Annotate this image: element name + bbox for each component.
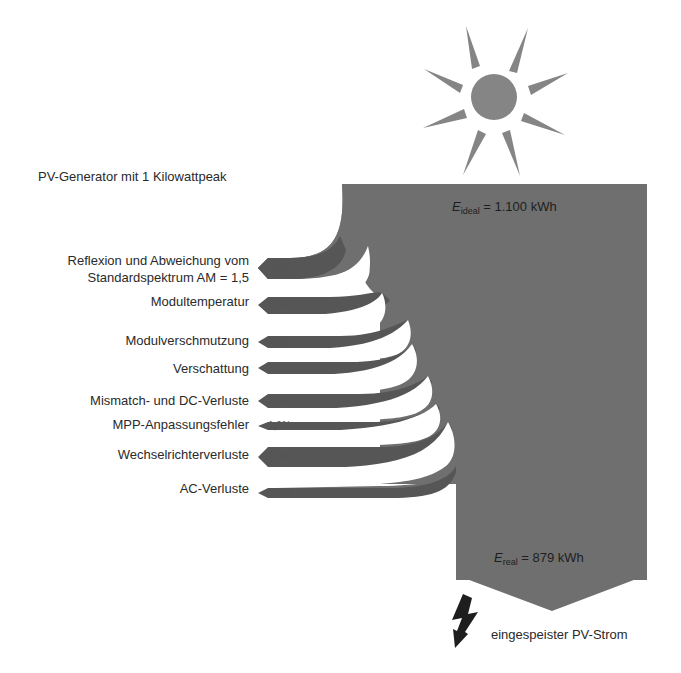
loss-label-reflexion: Reflexion und Abweichung vom Standardspe… <box>68 252 249 286</box>
loss-label-ac: AC-Verluste <box>180 481 249 496</box>
loss-percent: 4,5% <box>268 262 291 273</box>
diagram-title: PV-Generator mit 1 Kilowattpeak <box>38 169 227 184</box>
output-energy: Ereal = 879 kWh <box>494 550 584 567</box>
loss-label-verschattung: Verschattung <box>173 361 249 376</box>
loss-label-line1: Reflexion und Abweichung vom <box>68 252 249 269</box>
loss-label-mismatch: Mismatch- und DC-Verluste <box>90 393 249 408</box>
loss-percent: 3,0% <box>268 395 291 406</box>
input-energy-symbol: E <box>452 199 461 214</box>
input-energy-value: = 1.100 kWh <box>483 199 556 214</box>
input-energy: Eideal = 1.100 kWh <box>452 199 557 216</box>
loss-label-modultemperatur: Modultemperatur <box>151 294 249 309</box>
loss-label-line2: Standardspektrum AM = 1,5 <box>68 269 249 286</box>
lightning-bolt-icon <box>452 594 478 648</box>
loss-percent: 2,0% <box>268 336 291 347</box>
sankey-diagram <box>0 0 681 673</box>
loss-percent: 1,0% <box>268 420 291 431</box>
loss-label-modulverschmutzung: Modulverschmutzung <box>125 333 249 348</box>
output-label: eingespeister PV-Strom <box>491 627 628 642</box>
output-energy-symbol: E <box>494 550 503 565</box>
output-energy-value: = 879 kWh <box>521 550 584 565</box>
loss-label-wechselrichter: Wechselrichterverluste <box>118 447 249 462</box>
loss-label-mpp: MPP-Anpassungsfehler <box>112 417 249 432</box>
loss-percent: 3,5% <box>268 299 291 310</box>
loss-percent: 2,0% <box>268 362 291 373</box>
input-energy-subscript: ideal <box>461 206 480 216</box>
loss-percent: 4,5% <box>268 451 291 462</box>
loss-percent: 1,5% <box>268 487 291 498</box>
output-energy-subscript: real <box>503 557 518 567</box>
sun-icon <box>423 26 568 176</box>
